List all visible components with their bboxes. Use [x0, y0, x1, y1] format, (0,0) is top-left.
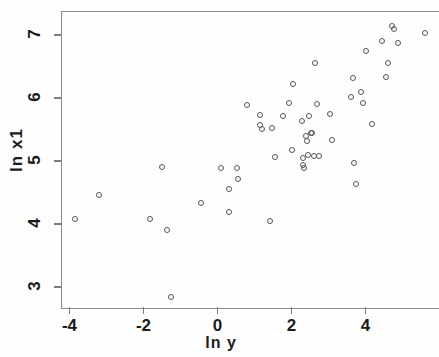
y-axis-tick-mark	[54, 97, 61, 98]
data-point	[304, 138, 310, 144]
data-point	[267, 218, 273, 224]
x-axis-tick-label: 4	[349, 316, 383, 336]
x-axis-tick-label: 0	[201, 316, 235, 336]
x-axis-tick-mark	[217, 307, 218, 314]
data-point	[235, 176, 241, 182]
data-point	[226, 186, 232, 192]
data-point	[329, 137, 335, 143]
y-axis-label: ln x1	[7, 120, 27, 180]
x-axis-tick-mark	[291, 307, 292, 314]
y-axis-tick-label: 5	[25, 149, 45, 171]
data-point	[301, 165, 307, 171]
data-point	[244, 102, 250, 108]
y-axis-tick-mark	[54, 223, 61, 224]
x-axis-tick-mark	[143, 307, 144, 314]
data-point	[168, 294, 174, 300]
y-axis-tick-label: 3	[25, 275, 45, 297]
data-point	[350, 75, 356, 81]
x-axis-tick-label: -2	[127, 316, 161, 336]
data-point	[72, 216, 78, 222]
data-point	[259, 126, 265, 132]
data-point	[286, 100, 292, 106]
data-point	[257, 112, 263, 118]
y-axis-tick-mark	[54, 286, 61, 287]
plot-area	[61, 11, 439, 309]
x-axis-tick-mark	[365, 307, 366, 314]
x-axis-tick-label: 2	[275, 316, 309, 336]
y-axis-tick-mark	[54, 34, 61, 35]
x-axis-label: ln y	[186, 334, 256, 352]
data-point	[272, 154, 278, 160]
y-axis-tick-label: 6	[25, 86, 45, 108]
x-axis-tick-mark	[69, 307, 70, 314]
data-point	[234, 165, 240, 171]
data-point	[226, 209, 232, 215]
data-point	[280, 113, 286, 119]
data-point	[353, 181, 359, 187]
data-point	[360, 100, 366, 106]
data-point	[358, 89, 364, 95]
y-axis-tick-mark	[54, 160, 61, 161]
y-axis-tick-label: 7	[25, 23, 45, 45]
data-point	[289, 147, 295, 153]
data-point	[164, 227, 170, 233]
y-axis-tick-label: 4	[25, 212, 45, 234]
x-axis-tick-label: -4	[53, 316, 87, 336]
data-point	[218, 165, 224, 171]
data-point	[363, 48, 369, 54]
